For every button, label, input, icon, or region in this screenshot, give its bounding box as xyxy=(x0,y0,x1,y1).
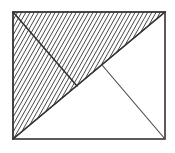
hatch-line xyxy=(170,0,175,153)
hatch-line xyxy=(123,0,175,153)
hatch-line xyxy=(102,0,175,153)
main-diagonal xyxy=(13,12,165,139)
hatch-line xyxy=(94,0,175,153)
hatch-line xyxy=(0,0,54,153)
hatch-line xyxy=(153,0,175,153)
hatch-line xyxy=(90,0,175,153)
hatch-line xyxy=(165,0,175,153)
hatch-line xyxy=(77,0,167,153)
hatch-line xyxy=(98,0,175,153)
hatch-line xyxy=(0,0,71,153)
hatch-line xyxy=(119,0,175,153)
rectangle-diagonal-diagram xyxy=(0,0,175,153)
hatch-line xyxy=(0,0,12,153)
hatch-line xyxy=(115,0,175,153)
hatch-line xyxy=(0,0,3,153)
hatch-line xyxy=(157,0,175,153)
perpendicular-from-bottom-right xyxy=(102,65,165,139)
hatch-line xyxy=(132,0,175,153)
hatch-line xyxy=(0,0,66,153)
hatch-line xyxy=(86,0,175,153)
hatch-line xyxy=(0,0,20,153)
hatch-line xyxy=(161,0,175,153)
hatch-line xyxy=(0,0,8,153)
hatch-line xyxy=(144,0,175,153)
hatch-line xyxy=(0,0,79,153)
hatch-line xyxy=(174,0,175,153)
hatch-line xyxy=(0,0,75,153)
hatch-line xyxy=(0,0,41,153)
